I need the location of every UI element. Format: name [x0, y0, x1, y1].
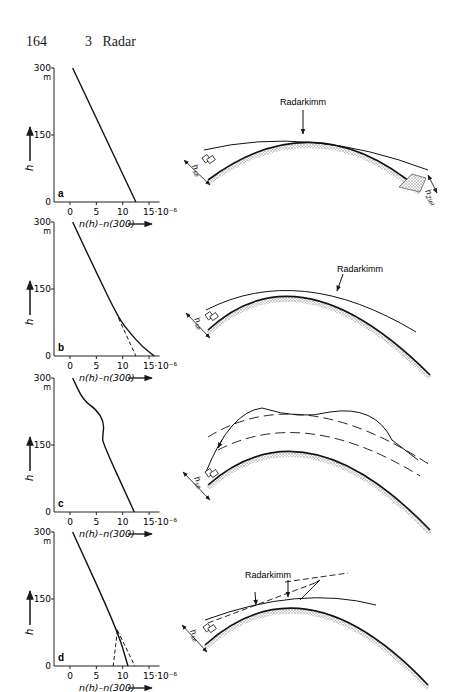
series-profile — [73, 68, 136, 202]
x-tick-label: 10 — [117, 207, 129, 217]
earth-surface — [208, 451, 430, 530]
diagram-a: hsehZielRadarkimm — [184, 97, 439, 207]
x-tick-label: 15·10⁻⁶ — [143, 361, 178, 371]
x-axis-label: n(h)–n(300) — [79, 682, 135, 692]
antenna-height-label: hse — [191, 316, 206, 331]
x-tick-label: 15·10⁻⁶ — [143, 671, 178, 681]
x-tick-label: 10 — [117, 671, 129, 681]
y-tick-label: 300 — [34, 217, 51, 227]
y-tick-label: 0 — [45, 197, 51, 207]
x-tick-label: 5 — [93, 671, 99, 681]
y-tick-label: 150 — [34, 440, 51, 450]
x-tick-label: 0 — [67, 671, 73, 681]
profile-plot-a: 300m1500h051015·10⁻⁶n(h)–n(300)a — [24, 63, 178, 229]
x-axis-label: n(h)–n(300) — [79, 218, 135, 229]
y-axis-label: h — [24, 629, 35, 635]
y-unit-label: m — [43, 227, 51, 236]
x-tick-label: 15·10⁻⁶ — [143, 517, 178, 527]
series-profile — [73, 532, 128, 666]
radar-horizon-label: Radarkimm — [337, 264, 383, 274]
x-tick-label: 10 — [117, 517, 129, 527]
y-axis-label: h — [24, 319, 35, 325]
x-tick-label: 5 — [93, 207, 99, 217]
y-tick-label: 150 — [34, 284, 51, 294]
y-tick-label: 300 — [34, 373, 51, 383]
x-tick-label: 5 — [93, 517, 99, 527]
y-tick-label: 0 — [45, 351, 51, 361]
earth-surface — [205, 608, 428, 685]
x-axis-label: n(h)–n(300) — [79, 528, 135, 539]
y-tick-label: 150 — [34, 130, 51, 140]
y-unit-label: m — [43, 73, 51, 82]
y-unit-label: m — [43, 383, 51, 392]
horizon-arrow — [255, 592, 256, 605]
antenna-height-label: hZiel — [422, 188, 439, 207]
radar-antenna-icon — [205, 312, 218, 321]
earth-surface — [208, 142, 420, 190]
panel-letter: b — [58, 342, 64, 353]
x-tick-label: 15·10⁻⁶ — [143, 207, 178, 217]
y-tick-label: 0 — [45, 507, 51, 517]
profile-plot-d: 300m1500h051015·10⁻⁶n(h)–n(300)d — [24, 527, 178, 692]
diagram-b: hseRadarkimm — [186, 264, 430, 378]
radar-antenna-icon — [203, 624, 216, 633]
duct-lower-boundary — [218, 433, 420, 476]
antenna-height-label: hse — [189, 163, 204, 178]
profile-plot-c: 300m1500h051015·10⁻⁶n(h)–n(300)c — [24, 373, 178, 539]
antenna-height-label: hse — [187, 628, 202, 643]
profile-plot-b: 300m1500h051015·10⁻⁶n(h)–n(300)b — [24, 217, 178, 383]
radar-antenna-icon — [202, 155, 215, 164]
series-profile — [73, 378, 135, 512]
x-tick-label: 5 — [93, 361, 99, 371]
x-axis-label: n(h)–n(300) — [79, 372, 135, 383]
y-tick-label: 300 — [34, 63, 51, 73]
x-tick-label: 0 — [67, 361, 73, 371]
y-tick-label: 0 — [45, 661, 51, 671]
diagram-c: hse — [183, 408, 430, 533]
y-tick-label: 150 — [34, 594, 51, 604]
y-axis-label: h — [24, 475, 35, 481]
panel-letter: d — [58, 652, 64, 663]
y-unit-label: m — [43, 537, 51, 546]
series-variant-1 — [113, 630, 117, 666]
y-axis-label: h — [24, 165, 35, 171]
tangent-line — [285, 573, 348, 582]
panel-letter: a — [58, 188, 64, 199]
diagram-d: hseRadarkimm — [182, 570, 428, 688]
x-tick-label: 0 — [67, 517, 73, 527]
radar-horizon-label: Radarkimm — [245, 570, 291, 580]
y-tick-label: 300 — [34, 527, 51, 537]
series-profile — [73, 222, 155, 356]
figure: 300m1500h051015·10⁻⁶n(h)–n(300)a300m1500… — [0, 0, 468, 692]
x-tick-label: 0 — [67, 207, 73, 217]
radar-horizon-label: Radarkimm — [280, 97, 326, 107]
x-tick-label: 10 — [117, 361, 129, 371]
panel-letter: c — [58, 498, 64, 509]
